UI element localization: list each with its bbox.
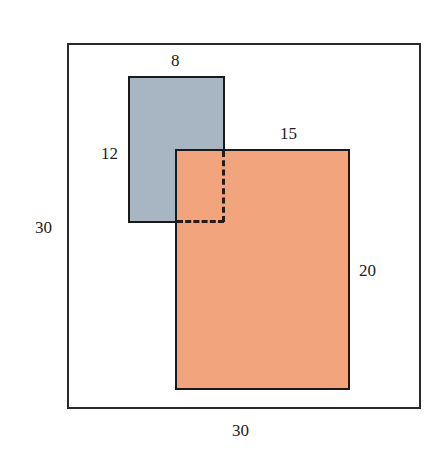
orange-height-label: 20 — [359, 262, 376, 279]
blue-height-label: 12 — [101, 145, 118, 162]
orange-width-label: 15 — [280, 125, 297, 142]
outer-height-label: 30 — [35, 219, 52, 236]
overlap-dashed-horizontal — [177, 220, 224, 223]
blue-width-label: 8 — [171, 52, 180, 69]
overlap-dashed-vertical — [222, 151, 225, 222]
outer-width-label: 30 — [232, 422, 249, 439]
orange-rectangle — [175, 149, 350, 390]
